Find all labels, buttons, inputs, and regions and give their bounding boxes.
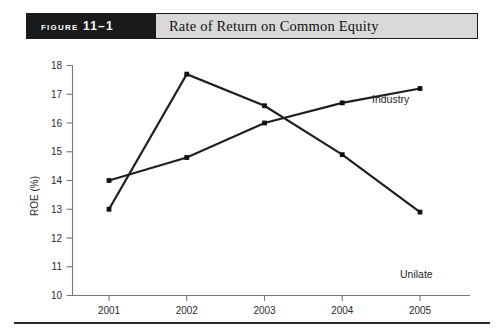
figure-number-box: Figure 11–1 <box>27 14 155 38</box>
line-chart: ROE (%) 10 11 12 13 14 15 16 17 18 <box>0 46 504 314</box>
data-point <box>418 86 423 91</box>
data-point <box>340 100 345 105</box>
y-tick-label-14: 14 <box>51 175 63 186</box>
y-tick-label-12: 12 <box>51 233 63 244</box>
y-tick-label-17: 17 <box>51 89 63 100</box>
figure-caption-bar: Figure 11–1 Rate of Return on Common Equ… <box>26 13 478 39</box>
data-point <box>418 210 423 215</box>
x-tick-label-2004: 2004 <box>331 305 354 314</box>
y-axis-ticks: 10 11 12 13 14 15 16 17 18 <box>51 60 73 301</box>
data-point <box>184 72 189 77</box>
y-tick-label-16: 16 <box>51 118 63 129</box>
data-point <box>184 155 189 160</box>
data-point <box>262 103 267 108</box>
series-label-unilate: Unilate <box>400 268 433 280</box>
y-tick-label-10: 10 <box>51 290 63 301</box>
x-tick-label-2003: 2003 <box>253 305 276 314</box>
data-point <box>340 152 345 157</box>
y-tick-label-13: 13 <box>51 204 63 215</box>
x-axis-ticks: 2001 2002 2003 2004 2005 <box>98 296 432 315</box>
figure-caption-title: Rate of Return on Common Equity <box>169 18 379 35</box>
x-tick-label-2001: 2001 <box>98 305 121 314</box>
x-tick-label-2002: 2002 <box>176 305 199 314</box>
axis-lines <box>73 66 471 296</box>
y-tick-label-11: 11 <box>52 261 63 272</box>
series-label-industry: Industry <box>372 93 410 105</box>
bottom-rule-divider <box>14 322 490 324</box>
x-tick-label-2005: 2005 <box>409 305 432 314</box>
data-point <box>107 207 112 212</box>
data-point <box>262 121 267 126</box>
figure-number-label: Figure 11–1 <box>41 19 114 33</box>
y-tick-label-18: 18 <box>51 60 63 71</box>
data-point <box>107 178 112 183</box>
y-axis-title: ROE (%) <box>29 176 40 216</box>
figure-caption-title-box: Rate of Return on Common Equity <box>155 14 477 38</box>
y-tick-label-15: 15 <box>51 146 63 157</box>
chart-container: ROE (%) 10 11 12 13 14 15 16 17 18 <box>0 46 504 314</box>
